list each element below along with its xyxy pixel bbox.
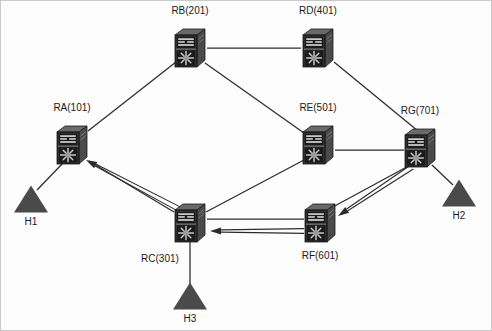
link-ra-h1 xyxy=(37,163,63,190)
links-layer xyxy=(37,48,453,287)
router-rc-label: RC(301) xyxy=(141,253,179,264)
router-rc-icon xyxy=(175,204,205,242)
routers-layer xyxy=(57,29,435,242)
flow-arrows-layer xyxy=(86,160,413,235)
router-rf-label: RF(601) xyxy=(302,250,339,261)
router-rb-label: RB(201) xyxy=(171,5,208,16)
router-ra-icon xyxy=(57,126,87,164)
router-rg-label: RG(701) xyxy=(401,105,439,116)
host-h3-label: H3 xyxy=(184,313,197,324)
router-re-label: RE(501) xyxy=(299,102,336,113)
router-ra-label: RA(101) xyxy=(53,102,90,113)
link-rg-h2 xyxy=(432,165,453,185)
link-rd-rg xyxy=(334,62,418,131)
link-rf-rg xyxy=(331,163,414,208)
link-ra-rc xyxy=(89,161,174,212)
router-rf-icon xyxy=(305,204,335,242)
flow-rg-rf xyxy=(338,165,413,216)
router-re-icon xyxy=(303,126,333,164)
router-rd-icon xyxy=(303,29,333,67)
router-rb-icon xyxy=(175,29,205,67)
hosts-layer xyxy=(14,180,476,310)
link-ra-rb xyxy=(88,62,176,131)
flow-rf-rc xyxy=(210,228,304,235)
flow-rf-rc-arrowhead xyxy=(210,228,221,235)
link-re-rc xyxy=(206,160,304,212)
host-h1-icon xyxy=(14,186,48,213)
host-h2-label: H2 xyxy=(453,210,466,221)
flow-rc-ra-arrowhead xyxy=(86,160,97,168)
diagram-canvas: H1H2H3RA(101)RB(201)RD(401)RE(501)RG(701… xyxy=(0,0,492,331)
host-h1-label: H1 xyxy=(25,216,38,227)
link-rb-re xyxy=(205,63,304,133)
router-rd-label: RD(401) xyxy=(299,5,337,16)
host-h3-icon xyxy=(173,283,207,310)
host-h2-icon xyxy=(442,180,476,207)
router-rg-icon xyxy=(405,129,435,167)
network-topology-diagram: H1H2H3RA(101)RB(201)RD(401)RE(501)RG(701… xyxy=(0,0,492,331)
